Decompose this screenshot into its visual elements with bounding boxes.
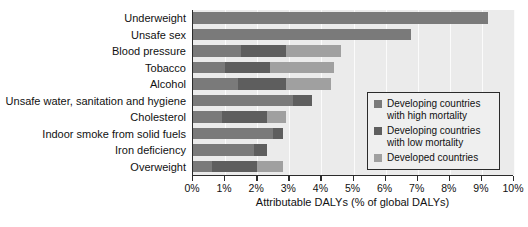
bar-segment [193,95,293,107]
x-axis-title: Attributable DALYs (% of global DALYs) [192,196,513,208]
bar-segment [225,62,270,74]
category-label: Iron deficiency [115,142,186,159]
category-label: Unsafe sex [131,27,186,44]
bar-segment [193,62,225,74]
bar-segment [257,161,283,173]
legend-item-label: Developing countries with high mortality [387,98,480,121]
category-label: Cholesterol [130,109,186,126]
bar-segment [267,111,286,123]
legend-item-label: Developed countries [387,152,478,164]
x-tick [320,176,321,181]
x-tick-label: 6% [377,182,392,194]
bar-segment [273,128,283,140]
bar-segment [193,45,241,57]
x-tick [513,176,514,181]
x-tick [192,176,193,181]
category-label: Underweight [124,10,186,27]
legend-label-line1: Developing countries [387,125,480,136]
stacked-bar[interactable] [193,95,312,107]
stacked-bar[interactable] [193,161,283,173]
bar-segment [270,62,334,74]
stacked-bar[interactable] [193,29,411,41]
bar-segment [193,78,238,90]
gridline [514,10,515,175]
legend-item[interactable]: Developed countries [374,152,494,164]
legend-item[interactable]: Developing countries with low mortality [374,125,494,148]
x-tick-label: 8% [441,182,456,194]
bar-segment [241,45,286,57]
stacked-bar[interactable] [193,62,334,74]
x-tick-label: 10% [502,182,523,194]
x-tick-label: 9% [473,182,488,194]
x-axis: 0%1%2%3%4%5%6%7%8%9%10% [192,175,513,176]
x-tick [353,176,354,181]
bar-segment [293,95,312,107]
stacked-bar[interactable] [193,12,488,24]
bar-segment [238,78,286,90]
x-tick [288,176,289,181]
stacked-bar[interactable] [193,144,267,156]
bar-segment [254,144,267,156]
x-tick [256,176,257,181]
stacked-bar[interactable] [193,111,286,123]
legend-label-line2: with low mortality [387,137,463,148]
bar-segment [193,161,212,173]
legend-item[interactable]: Developing countries with high mortality [374,98,494,121]
category-label: Overweight [130,159,186,176]
x-tick-label: 3% [281,182,296,194]
legend-label-line2: with high mortality [387,110,467,121]
x-tick-label: 5% [345,182,360,194]
bar-segment [193,29,411,41]
legend-swatch-icon [374,127,382,135]
bar-segment [286,78,331,90]
stacked-bar[interactable] [193,128,283,140]
bar-segment [193,12,488,24]
category-label: Alcohol [150,76,186,93]
x-tick-label: 4% [313,182,328,194]
category-label: Tobacco [145,60,186,77]
x-tick [385,176,386,181]
x-tick-label: 1% [217,182,232,194]
stacked-bar[interactable] [193,45,341,57]
x-tick [224,176,225,181]
category-label: Unsafe water, sanitation and hygiene [6,93,186,110]
chart-legend: Developing countries with high mortality… [367,92,500,170]
x-tick [449,176,450,181]
x-tick-label: 2% [249,182,264,194]
bar-segment [212,161,257,173]
legend-swatch-icon [374,154,382,162]
bar-segment [193,128,273,140]
category-label: Blood pressure [112,43,186,60]
legend-label-line1: Developing countries [387,98,480,109]
x-tick [481,176,482,181]
stacked-bar[interactable] [193,78,331,90]
bar-segment [193,144,254,156]
legend-swatch-icon [374,100,382,108]
x-tick [417,176,418,181]
x-tick-label: 7% [409,182,424,194]
legend-item-label: Developing countries with low mortality [387,125,480,148]
bar-segment [222,111,267,123]
chart-figure: UnderweightUnsafe sexBlood pressureTobac… [0,0,528,227]
legend-label-line1: Developed countries [387,152,478,163]
x-tick-label: 0% [184,182,199,194]
category-axis-labels: UnderweightUnsafe sexBlood pressureTobac… [0,10,190,175]
bar-segment [193,111,222,123]
bar-segment [286,45,341,57]
category-label: Indoor smoke from solid fuels [42,126,186,143]
